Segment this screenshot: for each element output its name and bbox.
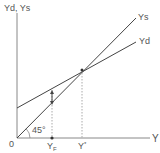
equilibrium-point bbox=[81, 69, 84, 72]
yf-point bbox=[50, 136, 53, 139]
yf-tick-label: YF bbox=[47, 141, 57, 152]
angle-label: 45° bbox=[32, 125, 46, 135]
x-axis-label: Y bbox=[152, 133, 159, 144]
ystar-tick-label: Y* bbox=[78, 141, 87, 151]
ys-line bbox=[17, 18, 136, 138]
yd-line-label: Yd bbox=[139, 36, 150, 46]
origin-label: 0 bbox=[9, 139, 14, 149]
yd-line bbox=[17, 42, 136, 108]
gap-arrow-icon bbox=[50, 90, 54, 105]
diagram-canvas: Yd, Ys Y 0 45° Ys Yd YF Y* bbox=[0, 0, 160, 153]
y-axis-label: Yd, Ys bbox=[4, 3, 31, 13]
ys-line-label: Ys bbox=[138, 12, 149, 22]
angle-arc bbox=[26, 129, 30, 138]
